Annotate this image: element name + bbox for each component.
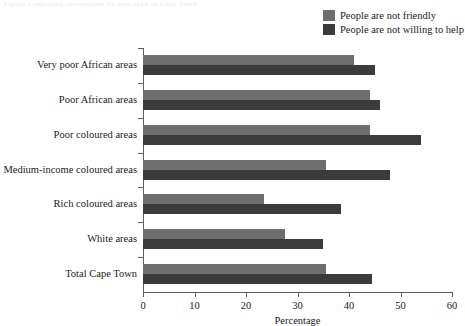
bar-group: Total Cape Town [143,257,452,292]
bar-not-friendly [143,125,370,135]
chart-legend: People are not friendly People are not w… [323,9,464,35]
y-axis-tick [138,222,143,223]
y-axis-category-label: Poor coloured areas [54,128,137,142]
legend-swatch-not-friendly [323,10,335,21]
bar-group: Rich coloured areas [143,187,452,222]
legend-item-not-willing-to-help: People are not willing to help [323,23,464,35]
x-axis-tick-label: 40 [344,299,355,312]
x-axis-tick-label: 30 [292,299,303,312]
y-axis-category-label: Total Cape Town [65,267,137,281]
bar-group: Medium-income coloured areas [143,153,452,188]
bar-group: White areas [143,222,452,257]
bar-group: Very poor African areas [143,48,452,83]
x-axis-tick-label: 0 [140,299,145,312]
y-axis-tick [138,118,143,119]
legend-label-not-friendly: People are not friendly [340,10,436,21]
bar-not-friendly [143,264,326,274]
x-axis-tick [298,292,299,297]
bar-not-friendly [143,55,354,65]
bar-not-willing-to-help [143,65,375,75]
y-axis-category-label: Very poor African areas [37,58,137,72]
bar-not-friendly [143,160,326,170]
bar-not-willing-to-help [143,204,341,214]
legend-swatch-not-willing-to-help [323,24,335,35]
y-axis-category-label: Rich coloured areas [54,197,137,211]
bar-group: Poor African areas [143,83,452,118]
legend-label-not-willing-to-help: People are not willing to help [340,24,464,35]
x-axis-tick-label: 20 [241,299,252,312]
x-axis-label: Percentage [143,315,452,326]
x-axis-tick [349,292,350,297]
x-axis-tick-label: 10 [189,299,200,312]
y-axis-category-label: White areas [87,232,137,246]
bar-not-willing-to-help [143,135,421,145]
bar-not-willing-to-help [143,100,380,110]
bar-not-willing-to-help [143,274,372,284]
bar-not-friendly [143,194,264,204]
bar-not-willing-to-help [143,170,390,180]
bar-not-friendly [143,90,370,100]
x-axis-tick-label: 60 [447,299,458,312]
y-axis-category-label: Medium-income coloured areas [3,163,137,177]
x-axis-tick [452,292,453,297]
x-axis-tick [401,292,402,297]
y-axis-tick [138,257,143,258]
y-axis-tick [138,187,143,188]
y-axis-category-label: Poor African areas [59,93,137,107]
bar-not-willing-to-help [143,239,323,249]
top-text-fragment: Figure comparing perceptions by area typ… [4,0,197,8]
x-axis-tick-label: 50 [395,299,406,312]
bar-group: Poor coloured areas [143,118,452,153]
y-axis-tick [138,48,143,49]
legend-item-not-friendly: People are not friendly [323,9,464,21]
chart-plot-area: Very poor African areasPoor African area… [143,48,452,292]
y-axis-tick [138,153,143,154]
x-axis-tick [246,292,247,297]
y-axis-tick [138,83,143,84]
bar-not-friendly [143,229,285,239]
x-axis-tick [195,292,196,297]
x-axis-tick [143,292,144,297]
